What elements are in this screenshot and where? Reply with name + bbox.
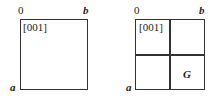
b-axis-label-right: b [199,5,205,16]
direction-label-right: [001] [139,22,163,33]
origin-label-right: 0 [134,5,140,16]
a-axis-label-left: a [10,82,16,93]
a-axis-label-right: a [126,82,132,93]
horizontal-divider [135,54,205,56]
b-axis-label-left: b [83,5,89,16]
origin-label-left: 0 [18,5,24,16]
quadrant-label-g: G [183,69,191,80]
direction-label-left: [001] [23,22,47,33]
